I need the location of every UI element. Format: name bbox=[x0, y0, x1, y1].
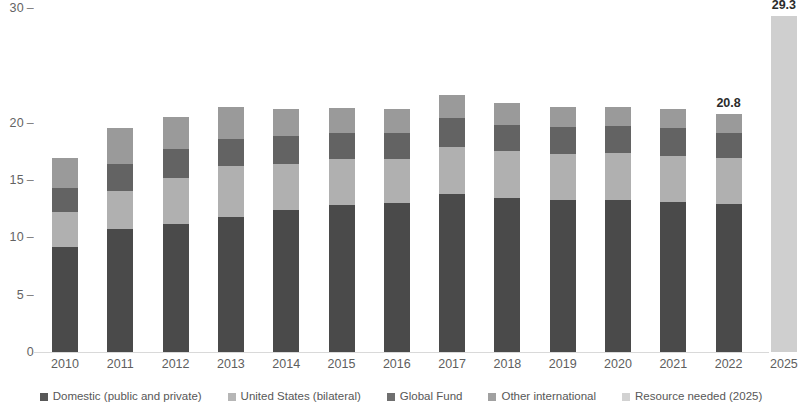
bar-segment[interactable] bbox=[273, 109, 299, 137]
bar-group-2012[interactable] bbox=[163, 8, 189, 352]
y-axis-tick-label: 0 bbox=[27, 345, 34, 359]
bar-segment[interactable] bbox=[494, 151, 520, 198]
bar-segment[interactable] bbox=[218, 107, 244, 139]
x-axis-tick-2022: 2022 bbox=[715, 357, 743, 371]
bar-segment[interactable] bbox=[107, 229, 133, 352]
legend-item[interactable]: Domestic (public and private) bbox=[40, 391, 202, 403]
x-axis-tick-2012: 2012 bbox=[162, 357, 190, 371]
bar-segment[interactable] bbox=[660, 109, 686, 128]
bar-segment[interactable] bbox=[439, 147, 465, 194]
legend-item[interactable]: Resource needed (2025) bbox=[622, 391, 762, 403]
x-axis-tick-2019: 2019 bbox=[549, 357, 577, 371]
legend-label: Global Fund bbox=[400, 391, 463, 403]
bar-segment[interactable] bbox=[163, 117, 189, 149]
bar-segment[interactable] bbox=[660, 156, 686, 202]
bar-segment[interactable] bbox=[605, 107, 631, 126]
y-axis-tick-mark: – bbox=[27, 230, 34, 244]
bar-segment[interactable] bbox=[660, 202, 686, 352]
bar-segment[interactable] bbox=[439, 194, 465, 352]
y-axis-tick-mark: – bbox=[27, 116, 34, 130]
legend-swatch-icon bbox=[228, 393, 236, 401]
bar-segment[interactable] bbox=[329, 159, 355, 205]
bar-segment[interactable] bbox=[550, 200, 576, 353]
bar-group-2020[interactable] bbox=[605, 8, 631, 352]
bar-segment[interactable] bbox=[163, 178, 189, 224]
legend-item[interactable]: Other international bbox=[488, 391, 596, 403]
x-axis-tick-2021: 2021 bbox=[659, 357, 687, 371]
bar-segment[interactable] bbox=[107, 164, 133, 192]
bar-segment[interactable] bbox=[605, 153, 631, 200]
bar-segment[interactable] bbox=[771, 16, 797, 352]
bar-segment[interactable] bbox=[52, 247, 78, 352]
bar-group-2022[interactable]: 20.8 bbox=[716, 8, 742, 352]
bar-segment[interactable] bbox=[384, 133, 410, 159]
bar-segment[interactable] bbox=[218, 139, 244, 167]
bar-stack bbox=[52, 158, 78, 352]
bar-group-2014[interactable] bbox=[273, 8, 299, 352]
bar-segment[interactable] bbox=[605, 126, 631, 152]
bar-segment[interactable] bbox=[52, 212, 78, 246]
bar-stack bbox=[605, 107, 631, 352]
bar-segment[interactable] bbox=[52, 158, 78, 188]
bar-segment[interactable] bbox=[329, 108, 355, 133]
bar-segment[interactable] bbox=[605, 200, 631, 353]
bar-group-2025[interactable]: 29.3 bbox=[771, 8, 797, 352]
bar-segment[interactable] bbox=[660, 128, 686, 156]
legend-label: United States (bilateral) bbox=[241, 391, 361, 403]
y-axis-tick-mark: – bbox=[27, 173, 34, 187]
bar-stack bbox=[329, 108, 355, 352]
plot-area: 20.829.3 bbox=[34, 8, 802, 352]
bar-segment[interactable] bbox=[163, 149, 189, 178]
bar-segment[interactable] bbox=[384, 109, 410, 133]
y-axis-tick-0: 0 bbox=[27, 345, 34, 359]
bar-segment[interactable] bbox=[439, 118, 465, 147]
bar-segment[interactable] bbox=[384, 203, 410, 352]
bar-segment[interactable] bbox=[218, 217, 244, 352]
bar-segment[interactable] bbox=[329, 205, 355, 352]
x-axis-tick-2020: 2020 bbox=[604, 357, 632, 371]
legend-item[interactable]: United States (bilateral) bbox=[228, 391, 361, 403]
x-axis-tick-2017: 2017 bbox=[438, 357, 466, 371]
bar-segment[interactable] bbox=[163, 224, 189, 352]
bar-segment[interactable] bbox=[273, 164, 299, 210]
bar-segment[interactable] bbox=[273, 136, 299, 164]
bar-segment[interactable] bbox=[716, 204, 742, 352]
bar-segment[interactable] bbox=[716, 114, 742, 133]
x-axis-tick-2025: 2025 bbox=[770, 357, 798, 371]
bar-stack bbox=[273, 109, 299, 352]
y-axis-tick-label: 5 bbox=[17, 288, 24, 302]
bar-group-2015[interactable] bbox=[329, 8, 355, 352]
bar-segment[interactable] bbox=[550, 127, 576, 153]
bar-segment[interactable] bbox=[107, 128, 133, 164]
bar-segment[interactable] bbox=[494, 125, 520, 151]
bar-group-2018[interactable] bbox=[494, 8, 520, 352]
bar-group-2013[interactable] bbox=[218, 8, 244, 352]
y-axis: 30–20–15–10–5–0 bbox=[0, 8, 34, 352]
bar-segment[interactable] bbox=[329, 133, 355, 159]
bar-segment[interactable] bbox=[439, 95, 465, 118]
bar-segment[interactable] bbox=[107, 191, 133, 229]
bar-group-2021[interactable] bbox=[660, 8, 686, 352]
bar-segment[interactable] bbox=[716, 133, 742, 158]
bar-group-2016[interactable] bbox=[384, 8, 410, 352]
bar-segment[interactable] bbox=[494, 103, 520, 125]
x-axis-tick-2014: 2014 bbox=[272, 357, 300, 371]
bar-segment[interactable] bbox=[52, 188, 78, 212]
bar-segment[interactable] bbox=[218, 166, 244, 216]
bar-group-2011[interactable] bbox=[107, 8, 133, 352]
bar-segment[interactable] bbox=[716, 158, 742, 204]
bar-group-2017[interactable] bbox=[439, 8, 465, 352]
legend-swatch-icon bbox=[40, 393, 48, 401]
legend-item[interactable]: Global Fund bbox=[387, 391, 463, 403]
bar-segment[interactable] bbox=[384, 159, 410, 203]
bar-stack bbox=[660, 109, 686, 352]
bar-group-2010[interactable] bbox=[52, 8, 78, 352]
bar-segment[interactable] bbox=[550, 154, 576, 200]
legend-swatch-icon bbox=[387, 393, 395, 401]
bar-value-label: 20.8 bbox=[716, 96, 740, 110]
bar-segment[interactable] bbox=[494, 198, 520, 352]
bar-group-2019[interactable] bbox=[550, 8, 576, 352]
bar-segment[interactable] bbox=[273, 210, 299, 352]
bar-segment[interactable] bbox=[550, 107, 576, 128]
y-axis-tick-30: 30– bbox=[10, 1, 34, 15]
